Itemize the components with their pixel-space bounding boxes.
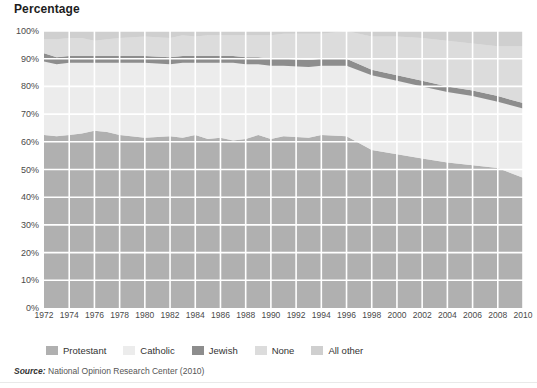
x-axis-tick: 1976 xyxy=(85,310,104,320)
y-axis-tick: 10% xyxy=(21,275,39,285)
x-axis-tick: 1990 xyxy=(261,310,280,320)
legend-item-none[interactable]: None xyxy=(255,345,295,356)
x-axis-tick: 1986 xyxy=(211,310,230,320)
y-axis-tick: 80% xyxy=(21,81,39,91)
legend-label: All other xyxy=(328,345,363,356)
x-axis-tick: 1992 xyxy=(287,310,306,320)
legend-swatch-icon xyxy=(192,346,204,355)
y-axis-tick: 70% xyxy=(21,109,39,119)
x-axis-tick: 2002 xyxy=(413,310,432,320)
x-axis-tick: 1984 xyxy=(186,310,205,320)
x-axis-tick: 1980 xyxy=(135,310,154,320)
x-axis-tick: 1974 xyxy=(60,310,79,320)
bottom-divider xyxy=(0,382,537,383)
legend-item-protestant[interactable]: Protestant xyxy=(46,345,106,356)
legend-label: None xyxy=(272,345,295,356)
y-axis-tick: 90% xyxy=(21,54,39,64)
legend-item-all-other[interactable]: All other xyxy=(311,345,363,356)
x-axis-tick: 1988 xyxy=(236,310,255,320)
legend-swatch-icon xyxy=(46,346,58,355)
chart-legend: ProtestantCatholicJewishNoneAll other xyxy=(46,345,380,356)
x-axis-tick: 2004 xyxy=(438,310,457,320)
source-note: Source: National Opinion Research Center… xyxy=(14,366,204,376)
plot-area xyxy=(44,31,523,308)
y-axis: 0%10%20%30%40%50%60%70%80%90%100% xyxy=(0,0,44,320)
x-axis-tick: 2006 xyxy=(463,310,482,320)
legend-swatch-icon xyxy=(123,346,135,355)
x-axis-tick: 2008 xyxy=(488,310,507,320)
source-label: Source: xyxy=(14,366,46,376)
legend-label: Jewish xyxy=(209,345,238,356)
x-axis-tick: 1996 xyxy=(337,310,356,320)
y-axis-tick: 20% xyxy=(21,248,39,258)
x-axis-tick: 1978 xyxy=(110,310,129,320)
legend-label: Catholic xyxy=(140,345,174,356)
x-axis-tick: 1972 xyxy=(35,310,54,320)
legend-swatch-icon xyxy=(255,346,267,355)
x-axis-tick: 1982 xyxy=(161,310,180,320)
x-axis-tick: 1994 xyxy=(312,310,331,320)
y-axis-tick: 60% xyxy=(21,137,39,147)
y-axis-tick: 50% xyxy=(21,165,39,175)
stacked-area-chart xyxy=(44,31,523,308)
x-axis-tick: 2000 xyxy=(387,310,406,320)
y-axis-tick: 100% xyxy=(16,26,39,36)
legend-item-jewish[interactable]: Jewish xyxy=(192,345,238,356)
y-axis-tick: 30% xyxy=(21,220,39,230)
legend-item-catholic[interactable]: Catholic xyxy=(123,345,174,356)
chart-page: Percentage 0%10%20%30%40%50%60%70%80%90%… xyxy=(0,0,537,388)
x-axis-tick: 2010 xyxy=(514,310,533,320)
legend-label: Protestant xyxy=(63,345,106,356)
x-axis-tick: 1998 xyxy=(362,310,381,320)
x-axis: 1972197419761978198019821984198619881990… xyxy=(44,310,523,328)
source-text: National Opinion Research Center (2010) xyxy=(48,366,204,376)
y-axis-tick: 40% xyxy=(21,192,39,202)
legend-swatch-icon xyxy=(311,346,323,355)
